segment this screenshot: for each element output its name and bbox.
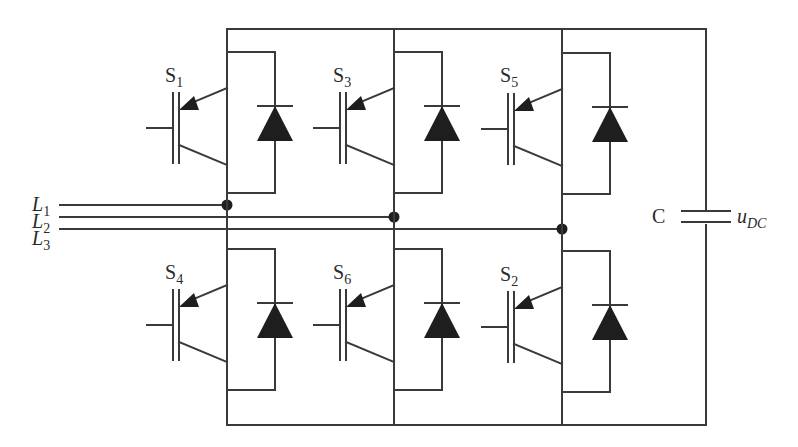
- switch-label-S2: S2: [500, 263, 518, 289]
- switch-label-S4: S4: [165, 261, 183, 287]
- inverter-circuit-diagram: C uDC L1 L2 L3 S1 S3 S5: [0, 0, 798, 447]
- capacitor-label: C: [652, 205, 665, 227]
- switch-label-S5: S5: [500, 64, 518, 90]
- switch-label-S6: S6: [333, 261, 351, 287]
- capacitor: [682, 211, 730, 222]
- switch-label-S1: S1: [165, 64, 183, 90]
- dc-voltage-label: uDC: [737, 205, 767, 231]
- switch-label-S3: S3: [333, 64, 351, 90]
